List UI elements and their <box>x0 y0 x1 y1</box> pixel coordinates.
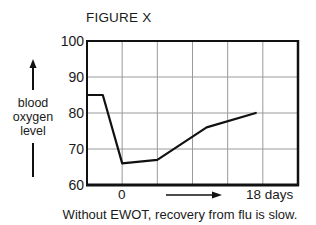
figure-caption: Without EWOT, recovery from flu is slow. <box>0 207 316 222</box>
x-axis-start-label: 0 <box>118 187 126 202</box>
right-arrow-icon <box>166 192 222 199</box>
x-axis-end-label: 18 days <box>246 187 293 202</box>
data-line <box>87 95 256 163</box>
up-arrow-icon <box>30 59 37 90</box>
plot-grid <box>87 41 298 185</box>
